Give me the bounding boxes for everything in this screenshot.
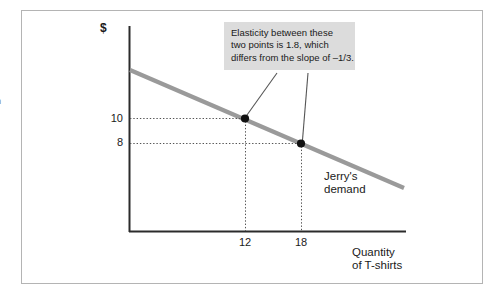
annotation-line-2: two points is 1.8, which [231, 39, 349, 51]
x-axis-title: Quantity of T-shirts [352, 246, 402, 272]
annotation-line-1: Elasticity between these [231, 27, 349, 39]
margin-clipped-text: n [0, 96, 14, 107]
demand-curve-label: Jerry's demand [324, 170, 366, 196]
y-axis-tick-label-8: 8 [103, 136, 123, 148]
x-axis-tick-label-12: 12 [235, 236, 255, 248]
x-axis-tick-label-18: 18 [291, 236, 311, 248]
annotation-line-3: differs from the slope of –1/3. [231, 52, 349, 64]
x-axis-title-line-1: Quantity [352, 246, 402, 259]
demand-curve-label-line-1: Jerry's [324, 170, 366, 183]
elasticity-annotation-box: Elasticity between these two points is 1… [224, 22, 355, 70]
y-axis-tick-label-10: 10 [103, 112, 123, 124]
demand-curve-label-line-2: demand [324, 183, 366, 196]
y-axis-title: $ [100, 21, 107, 35]
x-axis-title-line-2: of T-shirts [352, 259, 402, 272]
